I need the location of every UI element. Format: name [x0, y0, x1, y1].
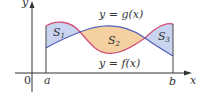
origin-label: 0 [24, 74, 31, 87]
y-axis-label: y [21, 0, 29, 9]
x-axis-label: x [190, 74, 197, 87]
f-curve-label: y = f(x) [98, 57, 140, 70]
g-curve-label: y = g(x) [98, 8, 143, 21]
b-label: b [169, 75, 176, 88]
y-axis-arrow-icon [30, 1, 35, 8]
a-label: a [44, 74, 51, 87]
area-between-curves-diagram: y x 0 a b y = g(x) y = f(x) S1 S2 S3 [0, 0, 206, 98]
